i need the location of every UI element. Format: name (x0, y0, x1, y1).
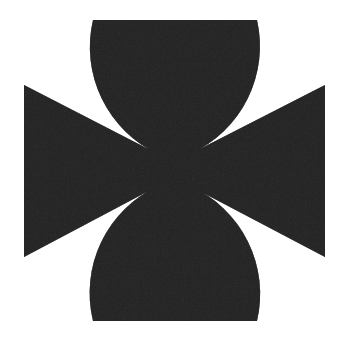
image-canvas: Cross pattée (Maltese / Iron Cross style… (0, 0, 346, 349)
cross-pattee-icon (0, 0, 346, 349)
